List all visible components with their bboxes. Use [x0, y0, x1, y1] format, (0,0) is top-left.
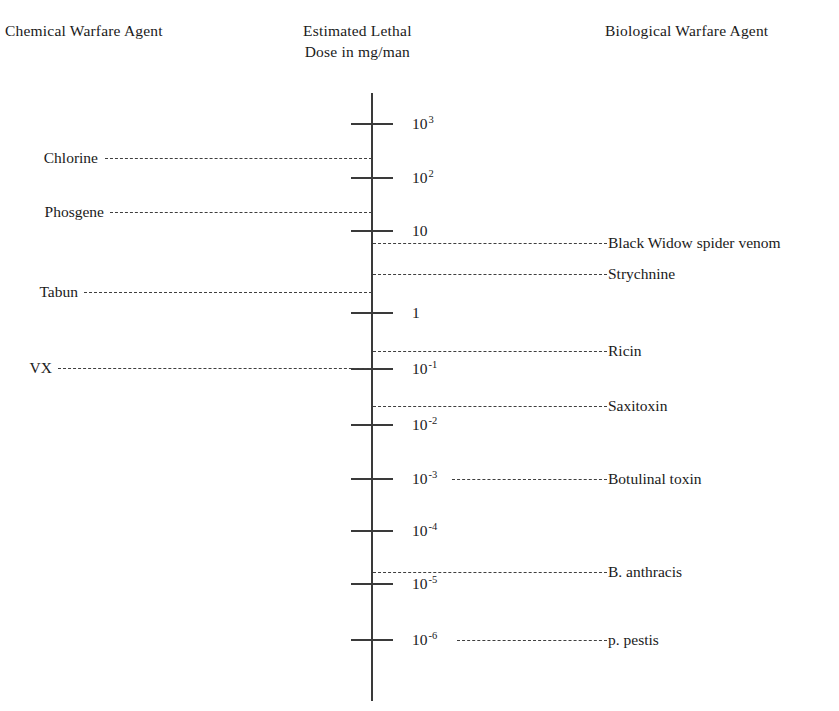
axis-tick-label: 102: [412, 170, 434, 186]
axis-tick-label: 10-2: [412, 417, 437, 433]
axis-tick-mark: [351, 177, 393, 179]
axis-tick-mark: [351, 530, 393, 532]
biological-agent-label: Strychnine: [608, 266, 675, 282]
column-header-chemical-warfare-agent: Chemical Warfare Agent: [5, 20, 163, 41]
column-header-biological-warfare-agent: Biological Warfare Agent: [605, 20, 768, 41]
chemical-agent-label: VX: [30, 360, 52, 376]
axis-tick-mark: [351, 478, 393, 480]
axis-tick-exponent: -6: [429, 630, 438, 641]
axis-tick-mark: [351, 424, 393, 426]
vertical-axis-line: [371, 93, 373, 701]
chemical-agent-label: Chlorine: [44, 150, 98, 166]
biological-agent-label: p. pestis: [608, 632, 659, 648]
biological-agent-leader-line: [373, 274, 607, 275]
axis-tick-label: 10-5: [412, 576, 437, 592]
chemical-agent-leader-line: [105, 158, 372, 159]
axis-tick-mark: [351, 312, 393, 314]
biological-agent-label: Black Widow spider venom: [608, 235, 781, 251]
axis-tick-exponent: -3: [429, 469, 438, 480]
axis-tick-exponent: -2: [429, 415, 438, 426]
axis-title-line-2: Dose in mg/man: [303, 41, 412, 62]
axis-tick-exponent: 3: [429, 114, 434, 125]
biological-agent-leader-line: [457, 640, 607, 641]
chemical-agent-leader-line: [58, 368, 372, 369]
biological-agent-label: B. anthracis: [608, 564, 682, 580]
chemical-agent-leader-line: [110, 212, 372, 213]
biological-agent-leader-line: [452, 479, 607, 480]
biological-agent-leader-line: [373, 406, 607, 407]
axis-tick-exponent: -1: [429, 359, 438, 370]
biological-agent-leader-line: [373, 351, 607, 352]
chemical-agent-label: Tabun: [39, 284, 78, 300]
axis-tick-mark: [351, 639, 393, 641]
column-header-estimated-lethal-dose: Estimated Lethal Dose in mg/man: [303, 20, 412, 62]
axis-tick-label: 10: [412, 223, 428, 239]
axis-tick-label: 10-3: [412, 471, 437, 487]
biological-agent-label: Ricin: [608, 343, 642, 359]
chemical-agent-leader-line: [84, 292, 372, 293]
axis-tick-mark: [351, 123, 393, 125]
biological-agent-label: Botulinal toxin: [608, 471, 701, 487]
axis-tick-mark: [351, 230, 393, 232]
biological-agent-leader-line: [373, 243, 607, 244]
lethal-dose-chart: Chemical Warfare Agent Estimated Lethal …: [0, 0, 839, 711]
axis-tick-mark: [351, 583, 393, 585]
axis-tick-label: 10-1: [412, 361, 437, 377]
axis-tick-label: 103: [412, 116, 434, 132]
chemical-agent-label: Phosgene: [45, 204, 104, 220]
axis-tick-exponent: 2: [429, 168, 434, 179]
axis-tick-exponent: -5: [429, 574, 438, 585]
biological-agent-leader-line: [373, 572, 607, 573]
axis-tick-label: 1: [412, 305, 420, 321]
axis-tick-label: 10-4: [412, 523, 437, 539]
axis-tick-exponent: -4: [429, 521, 438, 532]
axis-tick-label: 10-6: [412, 632, 437, 648]
biological-agent-label: Saxitoxin: [608, 398, 667, 414]
axis-title-line-1: Estimated Lethal: [303, 22, 412, 39]
